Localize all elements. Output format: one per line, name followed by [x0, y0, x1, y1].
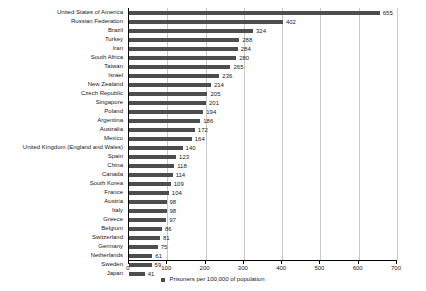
legend-swatch-icon [161, 278, 165, 282]
bar-row: 81 [129, 233, 397, 242]
category-label: Taiwan [104, 63, 123, 70]
category-label: Mexico [104, 135, 123, 142]
category-label-row: Belgium [0, 224, 126, 233]
category-label: Austria [104, 198, 123, 205]
bar-value-label: 236 [222, 73, 232, 79]
bar [129, 200, 167, 204]
category-label-row: Australia [0, 125, 126, 134]
category-label: Russian Federation [71, 18, 123, 25]
category-label: Canada [102, 171, 123, 178]
category-label: Netherlands [91, 252, 123, 259]
bar-value-label: 75 [161, 244, 168, 250]
category-label: Spain [108, 153, 123, 160]
plot-area: 6554023242882842802652362142052011941861… [128, 8, 397, 261]
bar-row: 214 [129, 80, 397, 89]
category-label-row: Germany [0, 242, 126, 251]
category-label: New Zealand [88, 81, 123, 88]
legend-label: Prisoners per 100,000 of population [169, 276, 264, 283]
category-label: Germany [98, 243, 123, 250]
category-label: South Africa [91, 54, 123, 61]
bar-value-label: 655 [383, 10, 393, 16]
bar [129, 164, 174, 168]
bar-row: 164 [129, 134, 397, 143]
bar-row: 265 [129, 62, 397, 71]
category-label-row: Spain [0, 152, 126, 161]
category-label-row: United Kingdom (England and Wales) [0, 143, 126, 152]
bar-row: 140 [129, 143, 397, 152]
x-tick-label: 500 [314, 265, 324, 272]
bar [129, 110, 203, 114]
bar-row: 402 [129, 17, 397, 26]
category-label-row: Israel [0, 71, 126, 80]
bar-row: 98 [129, 206, 397, 215]
bar-row: 284 [129, 44, 397, 53]
bar [129, 209, 167, 213]
bar [129, 155, 176, 159]
bar-row: 288 [129, 35, 397, 44]
bar-row: 98 [129, 197, 397, 206]
bar-row: 280 [129, 53, 397, 62]
bar-value-label: 109 [174, 181, 184, 187]
category-label-row: Russian Federation [0, 17, 126, 26]
bar [129, 245, 158, 249]
bar-value-label: 81 [163, 235, 170, 241]
bar-row: 61 [129, 251, 397, 260]
bar-value-label: 104 [172, 190, 182, 196]
x-tick-label: 400 [276, 265, 286, 272]
bar [129, 11, 380, 15]
bar-value-label: 86 [165, 226, 172, 232]
x-tick-mark [128, 261, 129, 264]
bar [129, 191, 169, 195]
category-label: Israel [108, 72, 123, 79]
bar-value-label: 201 [209, 100, 219, 106]
category-label-row: Argentina [0, 116, 126, 125]
x-tick-mark [358, 261, 359, 264]
x-tick-mark [281, 261, 282, 264]
category-axis-labels: United States of AmericaRussian Federati… [0, 8, 126, 260]
category-label-row: France [0, 188, 126, 197]
category-label: Turkey [105, 36, 123, 43]
category-label: Argentina [97, 117, 123, 124]
bar [129, 227, 162, 231]
bar-row: 205 [129, 89, 397, 98]
bar [129, 83, 211, 87]
category-label-row: Czech Republic [0, 89, 126, 98]
category-label-row: South Korea [0, 179, 126, 188]
bar [129, 119, 200, 123]
bar [129, 65, 230, 69]
category-label: Italy [112, 207, 123, 214]
bar-row: 114 [129, 170, 397, 179]
bar-row: 97 [129, 215, 397, 224]
category-label: Australia [100, 126, 123, 133]
x-tick-mark [166, 261, 167, 264]
bar [129, 47, 238, 51]
category-label: Brazil [108, 27, 123, 34]
bar [129, 182, 171, 186]
x-tick-mark [243, 261, 244, 264]
bar-value-label: 97 [169, 217, 176, 223]
x-tick-label: 700 [391, 265, 401, 272]
bar-value-label: 402 [286, 19, 296, 25]
category-label-row: Brazil [0, 26, 126, 35]
bar [129, 101, 206, 105]
category-label: South Korea [90, 180, 123, 187]
bar [129, 128, 195, 132]
x-tick-mark [396, 261, 397, 264]
bar-value-label: 172 [198, 127, 208, 133]
category-label-row: New Zealand [0, 80, 126, 89]
category-label: Switzerland [92, 234, 123, 241]
bar-value-label: 194 [206, 109, 216, 115]
bar-row: 655 [129, 8, 397, 17]
x-tick-label: 0 [126, 265, 129, 272]
bar-row: 86 [129, 224, 397, 233]
bar-value-label: 214 [214, 82, 224, 88]
category-label: United States of America [57, 9, 123, 16]
category-label: Belgium [101, 225, 123, 232]
x-tick-mark [319, 261, 320, 264]
category-label-row: Singapore [0, 98, 126, 107]
chart-legend: Prisoners per 100,000 of population [0, 276, 426, 283]
category-label: Singapore [96, 99, 123, 106]
bar [129, 20, 283, 24]
category-label: France [104, 189, 123, 196]
x-axis-ticks: 0100200300400500600700 [128, 261, 396, 273]
